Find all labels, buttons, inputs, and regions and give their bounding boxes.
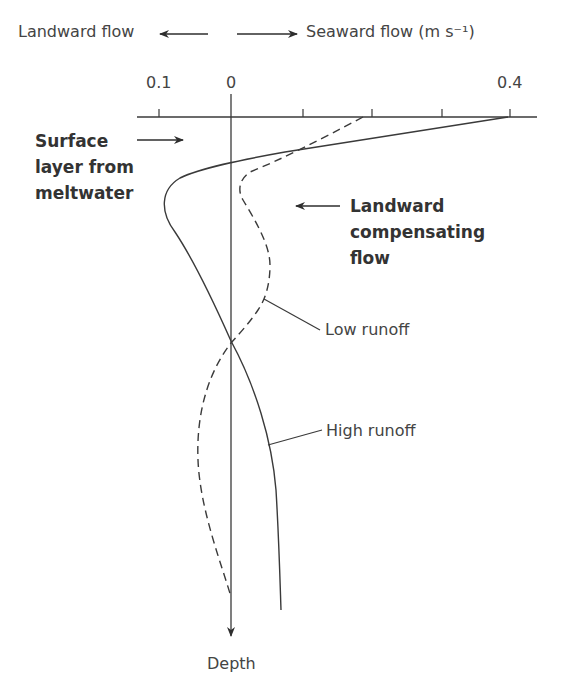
- high-runoff-leader: [268, 430, 322, 445]
- low-runoff-leader: [264, 299, 320, 330]
- high-runoff-curve: [164, 117, 508, 610]
- low-runoff-curve: [198, 117, 363, 597]
- flow-diagram: [0, 0, 566, 690]
- velocity-axis: [137, 109, 537, 117]
